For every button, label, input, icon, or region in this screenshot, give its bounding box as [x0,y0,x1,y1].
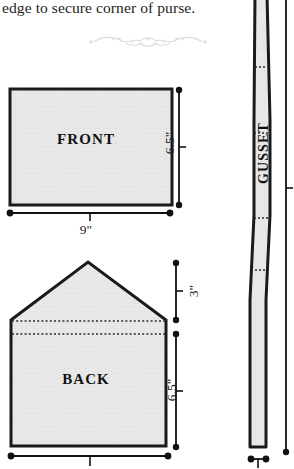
back-piece-label: BACK [0,371,172,388]
front-width-dimension [7,210,174,221]
front-width-dimension-label: 9" [58,222,114,238]
gusset-piece-label: GUSSET [256,128,272,184]
back-flap-dimension [173,260,183,323]
back-piece-shape [11,262,166,446]
pattern-diagram-page: edge to secure corner of purse. [0,0,294,469]
front-piece-label: FRONT [0,131,172,148]
gusset-length-dimension [283,0,293,455]
back-flap-dimension-label: 3" [186,273,202,309]
front-height-dimension-label: 6.5" [162,121,178,165]
gusset-width-dimension [248,456,270,468]
back-width-dimension [8,453,172,466]
pattern-shapes-layer [0,0,294,469]
back-body-dimension-label: 6.5" [164,368,180,412]
